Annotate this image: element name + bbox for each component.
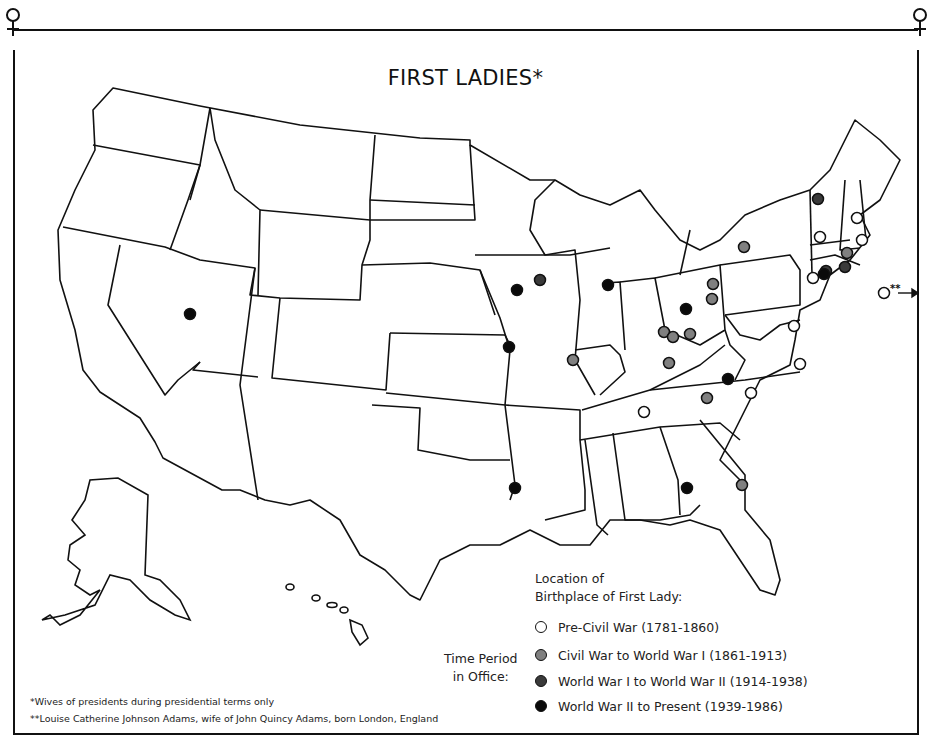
- legend-item-label: World War II to Present (1939-1986): [558, 699, 783, 714]
- birthplace-marker: [708, 279, 719, 290]
- map-poster: FIRST LADIES* ** Location of Birthplace …: [0, 0, 931, 743]
- poster-frame: [14, 30, 918, 735]
- birthplace-marker: [681, 304, 692, 315]
- birthplace-marker: [707, 294, 718, 305]
- birthplace-marker: [603, 280, 614, 291]
- birthplace-marker: [737, 480, 748, 491]
- hawaii-island: [350, 620, 368, 645]
- birthplace-marker: [813, 194, 824, 205]
- legend-item-label: Pre-Civil War (1781-1860): [558, 620, 719, 635]
- birthplace-marker: [852, 213, 863, 224]
- hawaii-island: [340, 607, 348, 613]
- birthplace-marker: [815, 232, 826, 243]
- legend-heading: Location of Birthplace of First Lady:: [535, 570, 682, 606]
- arrow-right-icon: [898, 289, 918, 297]
- alaska-hawaii: [42, 478, 368, 645]
- legend-item-wwi-to-wwii: World War I to World War II (1914-1938): [535, 671, 808, 691]
- birthplace-marker: [739, 242, 750, 253]
- circle-icon: [535, 621, 547, 633]
- us-outline: [58, 88, 900, 600]
- birthplace-marker: [819, 269, 830, 280]
- circle-icon: [535, 649, 547, 661]
- birthplace-marker: [746, 388, 757, 399]
- legend-side-line2: in Office:: [444, 668, 518, 686]
- birthplace-markers: [185, 194, 890, 494]
- birthplace-marker: [639, 407, 650, 418]
- legend-side-line1: Time Period: [444, 650, 518, 668]
- venus-icon: [914, 9, 926, 36]
- circle-icon: [535, 675, 547, 687]
- outside-marker-label: **: [890, 283, 900, 294]
- legend-item-label: Civil War to World War I (1861-1913): [558, 648, 787, 663]
- birthplace-marker: [842, 248, 853, 259]
- us-map: [58, 88, 900, 600]
- alaska-outline: [42, 478, 190, 625]
- birthplace-marker: [510, 483, 521, 494]
- hawaii-island: [286, 584, 294, 590]
- hawaii-island: [312, 595, 320, 601]
- birthplace-marker: [857, 235, 868, 246]
- birthplace-marker: [682, 483, 693, 494]
- birthplace-marker: [879, 288, 890, 299]
- map-canvas: [0, 0, 931, 743]
- birthplace-marker: [504, 342, 515, 353]
- birthplace-marker: [723, 374, 734, 385]
- birthplace-marker: [789, 321, 800, 332]
- footnote-double-asterisk: **Louise Catherine Johnson Adams, wife o…: [30, 713, 438, 724]
- birthplace-marker: [185, 309, 196, 320]
- legend-side-label: Time Period in Office:: [444, 650, 518, 686]
- birthplace-marker: [685, 329, 696, 340]
- legend-heading-line2: Birthplace of First Lady:: [535, 588, 682, 606]
- legend-item-civil-war-to-wwi: Civil War to World War I (1861-1913): [535, 645, 787, 665]
- legend-item-label: World War I to World War II (1914-1938): [558, 674, 808, 689]
- legend-item-wwii-to-present: World War II to Present (1939-1986): [535, 696, 783, 716]
- legend-item-pre-civil-war: Pre-Civil War (1781-1860): [535, 617, 719, 637]
- legend-heading-line1: Location of: [535, 570, 682, 588]
- birthplace-marker: [702, 393, 713, 404]
- footnote-single-asterisk: *Wives of presidents during presidential…: [30, 696, 274, 707]
- birthplace-marker: [535, 275, 546, 286]
- birthplace-marker: [808, 273, 819, 284]
- birthplace-marker: [568, 355, 579, 366]
- birthplace-marker: [664, 358, 675, 369]
- hawaii-island: [327, 603, 337, 608]
- birthplace-marker: [668, 332, 679, 343]
- birthplace-marker: [512, 285, 523, 296]
- map-title: FIRST LADIES*: [0, 66, 931, 90]
- circle-icon: [535, 700, 547, 712]
- venus-icon: [7, 9, 19, 36]
- birthplace-marker: [840, 262, 851, 273]
- birthplace-marker: [795, 359, 806, 370]
